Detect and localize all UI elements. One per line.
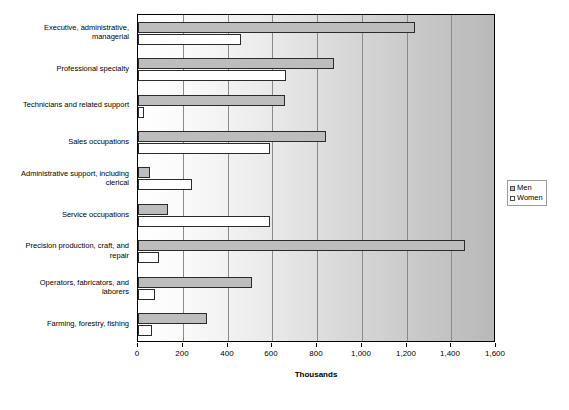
legend-swatch-icon [510,196,515,201]
category-label-line: Administrative support, including [0,169,129,179]
category-label-line: Operators, fabricators, and [0,278,129,288]
bar-men [138,58,334,69]
legend-item-label: Women [517,193,543,203]
axis-tick-mark [406,343,407,347]
category-label: Operators, fabricators, andlaborers [0,278,129,297]
bar-men [138,131,326,142]
axis-tick-mark [271,343,272,347]
bar-women [138,325,152,336]
category-label-line: Executive, administrative, [0,23,129,33]
bar-men [138,167,150,178]
axis-tick-mark [450,343,451,347]
category-label: Professional specialty [0,64,129,74]
bar-women [138,70,286,81]
bar-group [138,15,494,51]
category-label-line: Sales occupations [0,137,129,147]
axis-tick-mark [227,343,228,347]
category-axis: Executive, administrative,managerialProf… [0,14,133,342]
legend-item-men[interactable]: Men [510,183,543,193]
bar-men [138,95,285,106]
bar-women [138,34,241,45]
axis-tick-mark [316,343,317,347]
bar-men [138,22,415,33]
bar-group [138,197,494,233]
chart-legend: MenWomen [507,180,547,206]
bar-women [138,107,144,118]
category-label-line: Farming, forestry, fishing [0,319,129,329]
category-label-line: laborers [0,287,129,297]
value-axis: 02004006008001,0001,2001,4001,600 [137,343,495,363]
x-axis-title: Thousands [137,370,495,379]
bar-group [138,124,494,160]
category-label-line: Professional specialty [0,64,129,74]
bar-men [138,277,252,288]
axis-tick-mark [182,343,183,347]
category-label: Service occupations [0,210,129,220]
axis-tick-mark [495,343,496,347]
axis-tick-mark [137,343,138,347]
bar-group [138,161,494,197]
bar-group [138,51,494,87]
plot-area [137,14,495,342]
category-label: Precision production, craft, andrepair [0,241,129,260]
bar-women [138,216,270,227]
category-label-line: managerial [0,32,129,42]
category-label-line: Technicians and related support [0,100,129,110]
bar-men [138,204,168,215]
bar-women [138,179,192,190]
category-label-line: repair [0,251,129,261]
bar-group [138,234,494,270]
bar-group [138,88,494,124]
bar-chart: Executive, administrative,managerialProf… [0,0,569,410]
bar-group [138,307,494,342]
bar-men [138,240,465,251]
bar-group [138,270,494,306]
bar-men [138,313,207,324]
category-label: Administrative support, includingclerica… [0,169,129,188]
legend-item-label: Men [517,183,532,193]
bar-women [138,252,159,263]
category-label: Technicians and related support [0,100,129,110]
category-label: Sales occupations [0,137,129,147]
category-label-line: clerical [0,178,129,188]
category-label: Executive, administrative,managerial [0,23,129,42]
category-label-line: Precision production, craft, and [0,241,129,251]
bar-women [138,143,270,154]
category-label-line: Service occupations [0,210,129,220]
axis-tick-label: 1,600 [465,349,525,358]
legend-swatch-icon [510,186,515,191]
legend-item-women[interactable]: Women [510,193,543,203]
bar-women [138,289,155,300]
category-label: Farming, forestry, fishing [0,319,129,329]
axis-tick-mark [361,343,362,347]
